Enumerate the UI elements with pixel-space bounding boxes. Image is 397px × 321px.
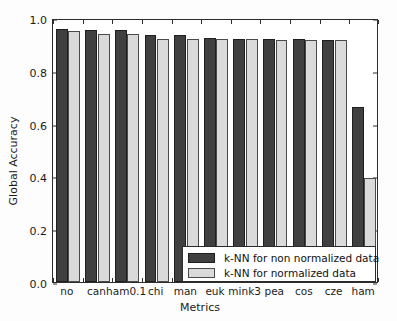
bar-normalized (98, 34, 110, 282)
x-tick-mark (112, 278, 113, 282)
x-tick-mark (378, 20, 379, 24)
legend-item: k-NN for normalized data (188, 265, 370, 280)
bar-non-normalized (115, 30, 127, 282)
legend-swatch-normalized (188, 268, 215, 278)
y-tick-label: 0.2 (30, 225, 48, 238)
y-tick-mark (373, 72, 377, 73)
x-tick-mark (53, 20, 54, 24)
bar-chart-figure: 0.00.20.40.60.81.0 Global Accuracy nocan… (0, 0, 397, 321)
x-tick-label: ham (352, 285, 375, 297)
x-tick-mark (378, 278, 379, 282)
plot-area: 0.00.20.40.60.81.0 (52, 19, 378, 283)
x-tick-label: ham0.1 (106, 285, 146, 297)
y-axis-label: Global Accuracy (7, 116, 20, 205)
x-tick-label: euk (205, 285, 224, 297)
x-tick-mark (172, 278, 173, 282)
legend-label-non-normalized: k-NN for non normalized data (224, 252, 379, 264)
x-tick-mark (231, 20, 232, 24)
y-tick-mark (53, 284, 57, 285)
x-tick-label: man (174, 285, 197, 297)
x-tick-label: chi (148, 285, 163, 297)
x-axis-label: Metrics (180, 301, 220, 314)
x-tick-label: pea (264, 285, 284, 297)
bar-non-normalized (85, 30, 97, 282)
x-tick-mark (112, 20, 113, 24)
x-tick-mark (320, 20, 321, 24)
y-tick-label: 0.4 (30, 172, 48, 185)
x-tick-mark (53, 278, 54, 282)
legend-label-normalized: k-NN for normalized data (224, 267, 356, 279)
chart-legend: k-NN for non normalized data k-NN for no… (182, 246, 376, 282)
x-tick-mark (142, 20, 143, 24)
x-tick-mark (142, 278, 143, 282)
x-tick-label: cos (295, 285, 313, 297)
x-tick-mark (83, 278, 84, 282)
legend-swatch-non-normalized (188, 253, 215, 263)
x-tick-label: can (87, 285, 106, 297)
x-tick-mark (201, 20, 202, 24)
bar-non-normalized (56, 29, 68, 282)
x-tick-mark (290, 20, 291, 24)
x-tick-mark (349, 20, 350, 24)
x-tick-mark (260, 20, 261, 24)
bar-normalized (68, 31, 80, 282)
x-tick-mark (172, 20, 173, 24)
y-tick-label: 0.6 (30, 119, 48, 132)
bar-normalized (127, 34, 139, 282)
x-tick-label: cze (325, 285, 343, 297)
bar-non-normalized (145, 35, 157, 282)
y-tick-label: 1.0 (30, 14, 48, 27)
y-tick-label: 0.0 (30, 278, 48, 291)
y-tick-mark (373, 20, 377, 21)
legend-item: k-NN for non normalized data (188, 250, 370, 265)
x-tick-label: mink3 (228, 285, 261, 297)
y-tick-mark (373, 125, 377, 126)
x-tick-mark (83, 20, 84, 24)
bar-normalized (157, 39, 169, 282)
x-tick-label: no (60, 285, 73, 297)
y-tick-label: 0.8 (30, 66, 48, 79)
